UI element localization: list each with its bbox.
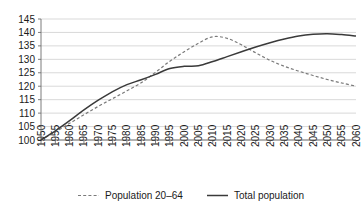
chart-canvas: 100105110115120125130135140145 195019551… — [0, 0, 364, 215]
y-tick-label: 100 — [18, 135, 35, 146]
x-tick-label: 1965 — [78, 124, 89, 147]
x-axis-tick-labels: 1950195519601965197019751980198519901995… — [36, 124, 362, 147]
x-tick-label: 2060 — [351, 124, 362, 147]
gridlines — [38, 19, 356, 140]
x-tick-label: 2005 — [193, 124, 204, 147]
x-tick-label: 1960 — [64, 124, 75, 147]
axis-lines — [41, 19, 356, 140]
y-tick-label: 130 — [18, 54, 35, 65]
x-tick-label: 1980 — [121, 124, 132, 147]
x-tick-label: 2035 — [279, 124, 290, 147]
x-tick-label: 1970 — [93, 124, 104, 147]
data-series-layer — [41, 34, 356, 140]
y-axis-tick-labels: 100105110115120125130135140145 — [18, 14, 35, 146]
y-tick-label: 145 — [18, 14, 35, 25]
x-tick-label: 2030 — [265, 124, 276, 147]
x-tick-label: 2045 — [308, 124, 319, 147]
y-tick-label: 115 — [19, 94, 35, 105]
series-line-population-20-64 — [41, 36, 356, 140]
series-line-total-population — [41, 34, 356, 140]
x-tick-label: 2050 — [322, 124, 333, 147]
x-tick-label: 1990 — [150, 124, 161, 147]
y-tick-label: 135 — [18, 40, 35, 51]
x-tick-label: 2055 — [336, 124, 347, 147]
x-tick-label: 1995 — [164, 124, 175, 147]
chart-legend: Population 20–64Total population — [78, 190, 304, 201]
legend-label: Total population — [234, 190, 304, 201]
x-tick-label: 2015 — [222, 124, 233, 147]
y-tick-label: 120 — [18, 81, 35, 92]
x-tick-label: 1975 — [107, 124, 118, 147]
population-projection-chart: 100105110115120125130135140145 195019551… — [0, 0, 364, 215]
legend-label: Population 20–64 — [105, 190, 183, 201]
y-tick-label: 110 — [19, 108, 35, 119]
y-tick-label: 105 — [18, 121, 35, 132]
x-tick-label: 1985 — [136, 124, 147, 147]
y-tick-label: 125 — [18, 67, 35, 78]
x-tick-label: 2010 — [207, 124, 218, 147]
x-tick-label: 2025 — [250, 124, 261, 147]
x-tick-label: 2040 — [293, 124, 304, 147]
y-tick-label: 140 — [18, 27, 35, 38]
x-tick-label: 2020 — [236, 124, 247, 147]
x-tick-label: 2000 — [179, 124, 190, 147]
